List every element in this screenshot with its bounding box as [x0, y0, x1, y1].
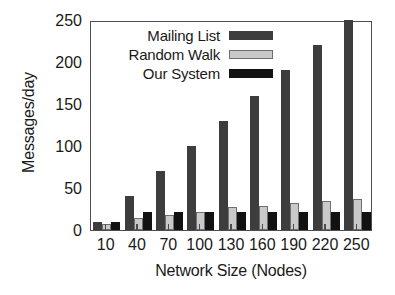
- bar-group: [125, 196, 152, 230]
- y-tick-label: 0: [22, 222, 82, 240]
- bar: [143, 212, 152, 230]
- bar: [165, 215, 174, 230]
- bar: [281, 70, 290, 230]
- bar: [250, 96, 259, 230]
- bar: [299, 212, 308, 230]
- bar-group: [344, 20, 371, 230]
- x-tick-mark: [324, 224, 325, 231]
- bar: [102, 224, 111, 230]
- legend-item: Random Walk: [108, 46, 273, 63]
- legend-label: Random Walk: [108, 46, 220, 63]
- legend-label: Mailing List: [108, 27, 220, 44]
- bar: [187, 146, 196, 230]
- bar-group: [93, 222, 120, 230]
- bar: [313, 45, 322, 230]
- bar-group: [219, 121, 246, 230]
- y-tick-label: 50: [22, 180, 82, 198]
- y-tick-label: 200: [22, 54, 82, 72]
- x-tick-mark: [168, 224, 169, 231]
- bar-group: [281, 70, 308, 230]
- chart-figure: Messages/day 050100150200250 10407010013…: [0, 0, 395, 295]
- y-tick-label: 150: [22, 96, 82, 114]
- bar: [237, 212, 246, 230]
- bar: [156, 171, 165, 230]
- bar: [134, 218, 143, 230]
- bar: [268, 212, 277, 230]
- chart-legend: Mailing ListRandom WalkOur System: [108, 27, 273, 82]
- legend-swatch: [229, 50, 273, 59]
- bar: [196, 212, 205, 230]
- x-tick-mark: [262, 224, 263, 231]
- legend-item: Mailing List: [108, 27, 273, 44]
- bar: [344, 20, 353, 230]
- bar: [331, 212, 340, 230]
- bar: [290, 203, 299, 230]
- bar: [174, 212, 183, 230]
- x-axis-title: Network Size (Nodes): [90, 262, 372, 280]
- bar: [322, 201, 331, 230]
- y-tick-label: 250: [22, 12, 82, 30]
- bar: [125, 196, 134, 230]
- bar-group: [313, 45, 340, 230]
- y-tick-label: 100: [22, 138, 82, 156]
- bar: [111, 222, 120, 230]
- bar: [362, 212, 371, 230]
- x-tick-label: 250: [333, 236, 379, 254]
- x-tick-mark: [356, 224, 357, 231]
- bar: [353, 199, 362, 230]
- bar: [205, 212, 214, 230]
- x-tick-mark: [230, 224, 231, 231]
- x-tick-mark: [199, 224, 200, 231]
- bar: [259, 206, 268, 230]
- x-tick-mark: [293, 224, 294, 231]
- bar-group: [187, 146, 214, 230]
- bar: [219, 121, 228, 230]
- legend-label: Our System: [108, 65, 220, 82]
- bar: [93, 222, 102, 230]
- legend-swatch: [229, 69, 273, 78]
- legend-item: Our System: [108, 65, 273, 82]
- bar-group: [156, 171, 183, 230]
- x-tick-mark: [136, 224, 137, 231]
- x-tick-mark: [105, 224, 106, 231]
- bar-group: [250, 96, 277, 230]
- legend-swatch: [229, 31, 273, 40]
- bar: [228, 207, 237, 230]
